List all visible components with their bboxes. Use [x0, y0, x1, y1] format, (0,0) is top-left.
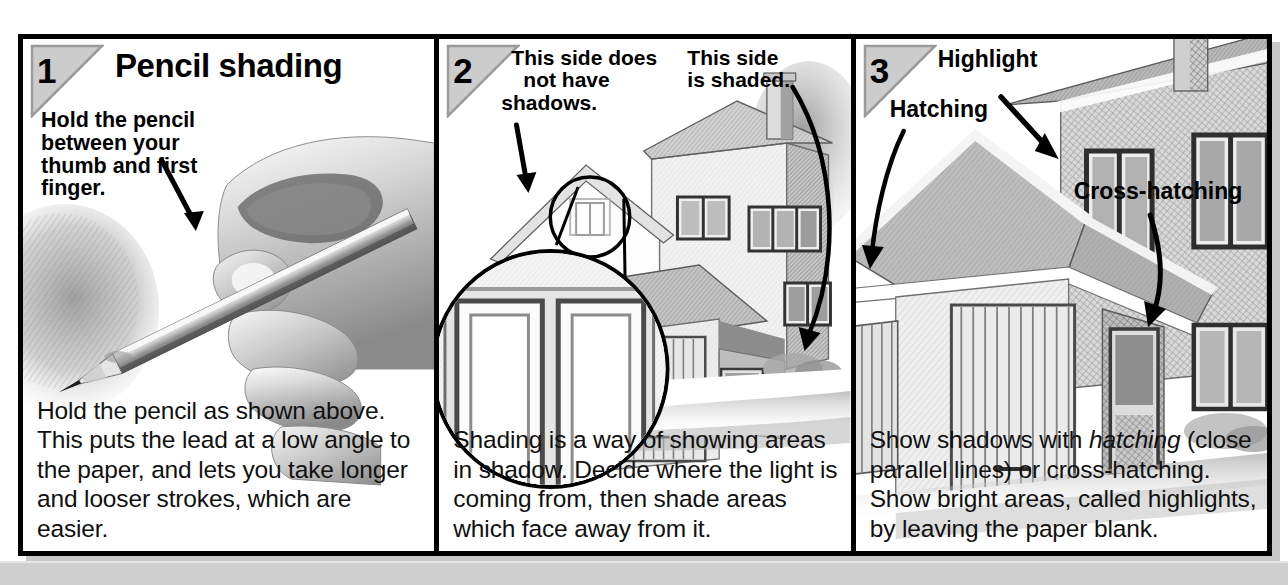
unshaded-side-callout: This side doesnot haveshadows. [511, 47, 657, 114]
hatching-callout: Hatching [890, 97, 988, 121]
shaded-side-callout: This sideis shaded. [687, 47, 790, 92]
page-root: 1 Pencil shading Hold the pencilbetween … [0, 0, 1288, 585]
panel-3: 3 Highlight Hatching Cross-hatching Show… [851, 39, 1267, 551]
panel-3-body-emphasis: hatching [1089, 426, 1180, 453]
panel-1-title: Pencil shading [115, 47, 342, 85]
panel-3-body-part-1: Show shadows with [870, 426, 1089, 453]
panel-1-number-badge: 1 [30, 44, 104, 118]
panel-strip: 1 Pencil shading Hold the pencilbetween … [18, 34, 1272, 556]
panel-2: 2 This side doesnot haveshadows. This si… [434, 39, 850, 551]
panel-1: 1 Pencil shading Hold the pencilbetween … [23, 39, 434, 551]
panel-1-number: 1 [37, 53, 56, 88]
panel-3-number: 3 [870, 53, 889, 88]
panel-2-body: Shading is a way of showing areas in sha… [453, 425, 840, 543]
cross-hatching-callout: Cross-hatching [1074, 179, 1243, 203]
panel-2-number: 2 [453, 53, 472, 88]
hold-pencil-callout: Hold the pencilbetween yourthumb and fir… [41, 109, 197, 200]
highlight-callout: Highlight [938, 47, 1038, 71]
panel-3-body: Show shadows with hatching (close parall… [870, 425, 1257, 543]
panel-1-body: Hold the pencil as shown above. This put… [37, 396, 424, 543]
page-bottom-band [0, 563, 1288, 585]
